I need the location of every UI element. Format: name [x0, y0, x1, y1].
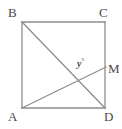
vertex-label-d: D [104, 110, 113, 123]
vertex-label-c: C [99, 6, 108, 19]
angle-label-y: y° [77, 58, 84, 69]
diagonal-bd-line [22, 22, 105, 108]
geometry-figure: B C A D M y° [0, 0, 122, 129]
vertex-label-a: A [8, 110, 17, 123]
degree-symbol: ° [81, 57, 84, 65]
vertex-label-m: M [108, 62, 120, 75]
segment-am-line [22, 67, 106, 108]
vertex-label-b: B [8, 6, 17, 19]
